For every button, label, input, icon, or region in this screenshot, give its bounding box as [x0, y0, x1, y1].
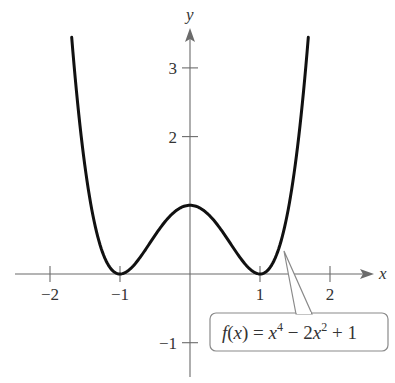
function-graph: x y −2−112−123 f(x) = x4 − 2x2 + 1	[0, 0, 395, 383]
function-callout: f(x) = x4 − 2x2 + 1	[210, 251, 388, 351]
y-tick-label: −1	[159, 334, 177, 353]
y-tick-label: 3	[169, 59, 178, 78]
x-tick-label: 1	[256, 285, 265, 304]
x-axis-label: x	[378, 264, 387, 283]
x-tick-label: 2	[326, 285, 335, 304]
function-label: f(x) = x4 − 2x2 + 1	[222, 320, 357, 344]
callout-pointer	[284, 251, 312, 314]
x-tick-label: −1	[111, 285, 129, 304]
y-tick-label: 2	[169, 128, 178, 147]
x-tick-label: −2	[41, 285, 59, 304]
y-axis-label: y	[184, 5, 194, 24]
